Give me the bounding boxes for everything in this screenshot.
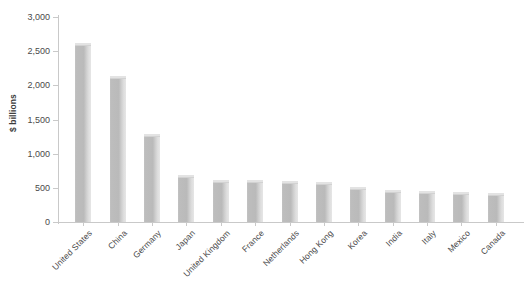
x-axis-category-label: France xyxy=(240,228,266,254)
y-axis-tick xyxy=(53,17,58,18)
y-axis-tick-label: 3,000 xyxy=(4,12,50,22)
y-axis-tick xyxy=(53,188,58,189)
x-axis-tick xyxy=(255,222,256,226)
y-axis-tick xyxy=(53,120,58,121)
x-axis-tick xyxy=(427,222,428,226)
x-axis-tick xyxy=(496,222,497,226)
bar-top-face xyxy=(350,187,366,190)
x-axis-line xyxy=(58,222,524,223)
bar-top-face xyxy=(75,43,91,46)
y-axis-tick-label: 0 xyxy=(4,217,50,227)
x-axis-tick xyxy=(393,222,394,226)
y-axis-tick-label: 2,500 xyxy=(4,46,50,56)
bar-top-face xyxy=(453,192,469,195)
bar xyxy=(488,193,504,222)
bar-top-face xyxy=(419,191,435,194)
y-axis-tick-label: 2,000 xyxy=(4,80,50,90)
bar xyxy=(247,180,263,222)
x-axis-tick xyxy=(461,222,462,226)
y-axis-tick-label: 1,000 xyxy=(4,149,50,159)
x-axis-category-label: Italy xyxy=(420,228,438,246)
x-axis-tick xyxy=(358,222,359,226)
x-axis-category-label: India xyxy=(383,228,403,248)
bar-chart-figure: $ billions 3,0002,5002,0001,5001,0005000… xyxy=(0,0,526,300)
x-axis-tick xyxy=(324,222,325,226)
x-axis-category-label: Germany xyxy=(131,228,163,260)
y-axis-tick xyxy=(53,51,58,52)
bar-top-face xyxy=(316,182,332,185)
x-axis-category-label: Mexico xyxy=(446,228,473,255)
bar xyxy=(282,181,298,222)
bar xyxy=(316,182,332,222)
bar-top-face xyxy=(247,180,263,183)
bar xyxy=(453,192,469,222)
bar-top-face xyxy=(110,76,126,79)
x-axis-category-label: Canada xyxy=(478,228,507,257)
bar-top-face xyxy=(282,181,298,184)
bar xyxy=(213,180,229,222)
bar xyxy=(178,175,194,222)
bar-top-face xyxy=(178,175,194,178)
bar xyxy=(75,43,91,222)
bar-top-face xyxy=(488,193,504,196)
x-axis-category-label: China xyxy=(106,228,129,251)
y-axis-tick-label: 1,500 xyxy=(4,115,50,125)
y-axis-tick-label: 500 xyxy=(4,183,50,193)
x-axis-category-label: Hong Kong xyxy=(297,228,335,266)
x-axis-category-label: Netherlands xyxy=(260,228,300,268)
x-axis-tick xyxy=(118,222,119,226)
x-axis-tick xyxy=(152,222,153,226)
x-axis-category-label: Korea xyxy=(346,228,369,251)
x-axis-tick xyxy=(83,222,84,226)
bar-top-face xyxy=(213,180,229,183)
bar-top-face xyxy=(385,190,401,193)
x-axis-tick xyxy=(186,222,187,226)
bar xyxy=(144,134,160,222)
y-axis-line xyxy=(58,15,59,224)
bar-top-face xyxy=(144,134,160,137)
y-axis-tick xyxy=(53,154,58,155)
y-axis-tick xyxy=(53,85,58,86)
x-axis-tick xyxy=(221,222,222,226)
x-axis-category-label: Japan xyxy=(174,228,198,252)
y-axis-title-label: $ billions xyxy=(8,94,18,132)
x-axis-category-label: United States xyxy=(50,228,94,272)
y-axis-tick xyxy=(53,222,58,223)
bar xyxy=(385,190,401,222)
bar xyxy=(419,191,435,222)
bar xyxy=(350,187,366,222)
bar xyxy=(110,76,126,222)
x-axis-tick xyxy=(290,222,291,226)
